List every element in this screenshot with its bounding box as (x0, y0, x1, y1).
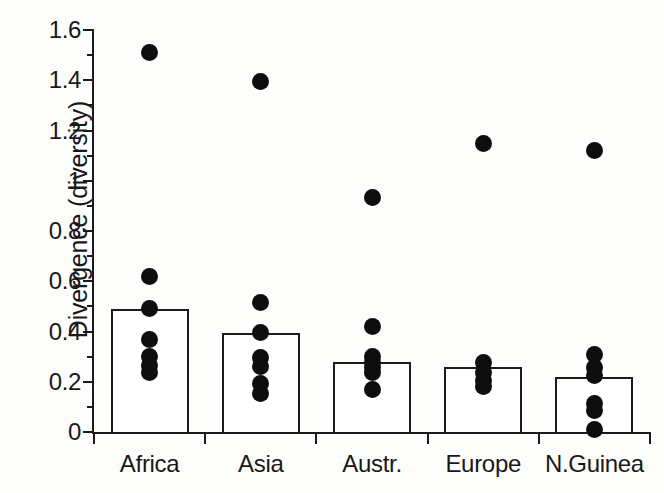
x-tick (538, 432, 540, 444)
data-point (252, 294, 269, 311)
y-tick-minor (87, 305, 94, 307)
y-tick-major (83, 180, 94, 182)
y-tick-label: 1.6 (49, 16, 81, 44)
data-point (586, 421, 603, 438)
y-tick-major (83, 280, 94, 282)
data-point (252, 385, 269, 402)
y-tick-label: 1 (68, 167, 81, 195)
y-tick-major (83, 130, 94, 132)
y-tick-major (83, 230, 94, 232)
y-tick-minor (87, 155, 94, 157)
y-tick-label: 0.6 (49, 267, 81, 295)
data-point (252, 73, 269, 90)
y-tick-label: 0.2 (49, 368, 81, 396)
x-tick (93, 432, 95, 444)
divergence-diversity-bar-chart: Divergence (diversity) 00.20.40.60.811.2… (0, 0, 664, 493)
scan-bleed-through (0, 470, 664, 493)
data-point (141, 331, 158, 348)
data-point (141, 44, 158, 61)
x-tick (204, 432, 206, 444)
data-point (364, 364, 381, 381)
data-point (364, 381, 381, 398)
x-tick (427, 432, 429, 444)
y-tick-major (83, 29, 94, 31)
y-tick-minor (87, 356, 94, 358)
x-tick (315, 432, 317, 444)
data-point (586, 367, 603, 384)
data-point (586, 402, 603, 419)
y-tick-major (83, 381, 94, 383)
data-point (475, 135, 492, 152)
data-point (141, 268, 158, 285)
y-tick-major (83, 331, 94, 333)
x-tick (649, 432, 651, 444)
y-tick-minor (87, 255, 94, 257)
y-tick-label: 0.4 (49, 318, 81, 346)
y-tick-major (83, 79, 94, 81)
plot-area: 00.20.40.60.811.21.41.6 AfricaAsiaAustr.… (94, 30, 650, 432)
y-tick-minor (87, 406, 94, 408)
y-tick-label: 0 (68, 418, 81, 446)
y-tick-minor (87, 205, 94, 207)
y-tick-minor (87, 104, 94, 106)
y-tick-label: 1.2 (49, 117, 81, 145)
data-point (364, 189, 381, 206)
y-tick-label: 1.4 (49, 66, 81, 94)
data-point (475, 378, 492, 395)
y-tick-minor (87, 54, 94, 56)
data-point (586, 142, 603, 159)
x-axis-line (92, 432, 650, 434)
data-point (364, 318, 381, 335)
y-tick-label: 0.8 (49, 217, 81, 245)
